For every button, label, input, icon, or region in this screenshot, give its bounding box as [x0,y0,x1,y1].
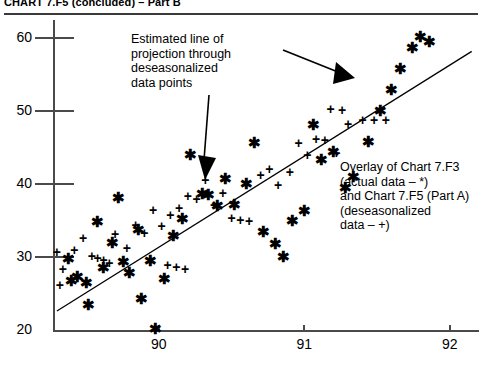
x-axis-label-91: 91 [284,336,324,352]
data-point-star: ✱ [423,34,436,49]
data-point-plus: + [265,162,273,176]
page-title: CHART 7.F5 (concluded) – Part B [4,0,181,8]
data-point-plus: + [370,113,378,127]
data-point-plus: + [236,213,244,227]
overlay-annotation: Overlay of Chart 7.F3 (actual data – *) … [340,160,469,233]
data-point-plus: + [131,218,139,232]
data-point-star: ✱ [82,296,95,311]
data-point-star: ✱ [112,189,125,204]
data-point-plus: + [59,262,67,276]
y-tick-30 [35,256,54,258]
chart-page: CHART 7.F5 (concluded) – Part B 20304050… [0,0,491,366]
data-point-plus: + [274,178,282,192]
data-point-plus: + [245,214,253,228]
data-point-star: ✱ [248,134,261,149]
data-point-plus: + [56,278,64,292]
data-point-plus: + [163,258,171,272]
data-point-star: ✱ [298,203,311,218]
data-point-star: ✱ [307,117,320,132]
data-point-plus: + [257,168,265,182]
data-point-plus: + [79,231,87,245]
data-point-plus: + [166,208,174,222]
data-point-plus: + [181,262,189,276]
data-point-plus: + [326,102,334,116]
data-point-star: ✱ [362,134,375,149]
data-point-star: ✱ [135,290,148,305]
data-point-plus: + [140,226,148,240]
data-point-plus: + [294,136,302,150]
y-tick-40 [35,183,54,185]
x-axis-line [53,330,479,332]
data-point-plus: + [70,243,78,257]
data-point-plus: + [105,256,113,270]
x-axis-label-92: 92 [430,336,470,352]
data-point-plus: + [53,245,61,259]
data-point-plus: + [158,219,166,233]
data-point-star: ✱ [394,61,407,76]
x-axis-label-90: 90 [139,336,179,352]
data-point-star: ✱ [385,81,398,96]
data-point-plus: + [184,189,192,203]
data-point-star: ✱ [219,170,232,185]
y-tick-50 [35,110,54,112]
data-point-plus: + [332,146,340,160]
data-point-star: ✱ [277,249,290,264]
data-point-plus: + [172,260,180,274]
data-point-star: ✱ [240,175,253,190]
y-axis-label-40: 40 [6,175,32,191]
data-point-plus: + [123,241,131,255]
data-point-plus: + [286,165,294,179]
data-point-plus: + [358,113,366,127]
data-point-star: ✱ [149,320,162,335]
y-tick-60 [35,37,54,39]
data-point-star: ✱ [228,196,241,211]
data-point-plus: + [303,148,311,162]
data-point-star: ✱ [167,228,180,243]
data-point-star: ✱ [80,274,93,289]
y-axis-label-20: 20 [6,321,32,337]
data-point-plus: + [321,133,329,147]
data-point-plus: + [312,132,320,146]
data-point-plus: + [149,203,157,217]
title-divider [4,13,478,15]
data-point-star: ✱ [144,252,157,267]
data-point-star: ✱ [91,213,104,228]
data-point-star: ✱ [123,264,136,279]
data-point-plus: + [227,211,235,225]
data-point-plus: + [219,186,227,200]
data-point-plus: + [210,198,218,212]
y-axis-label-60: 60 [6,29,32,45]
data-point-plus: + [382,113,390,127]
data-point-plus: + [338,103,346,117]
data-point-plus: + [111,227,119,241]
data-point-plus: + [201,173,209,187]
trendline-annotation: Estimated line of projection through des… [131,32,231,90]
data-point-star: ✱ [184,147,197,162]
y-axis-label-30: 30 [6,248,32,264]
data-point-plus: + [175,201,183,215]
data-point-plus: + [344,117,352,131]
data-point-plus: + [193,192,201,206]
y-axis-label-50: 50 [6,102,32,118]
